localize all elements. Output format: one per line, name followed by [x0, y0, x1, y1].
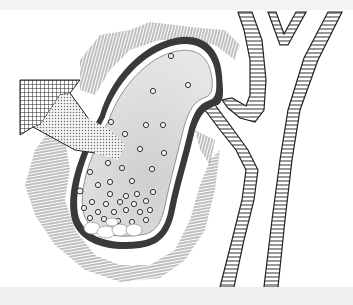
illustration-frame: [0, 0, 353, 305]
gallbladder-illustration: [0, 0, 353, 305]
bottom-band: [0, 287, 353, 305]
bile-ducts: [205, 12, 342, 287]
